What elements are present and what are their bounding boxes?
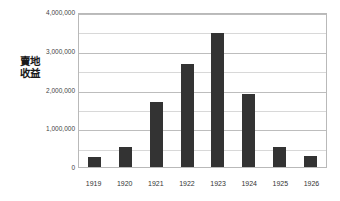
x-tick-label: 1923: [210, 180, 226, 187]
bar-slot-1922: [172, 14, 203, 167]
bar-slot-1924: [233, 14, 264, 167]
y-axis-tick-labels: 4,000,000 3,000,000 2,000,000 1,000,000 …: [34, 13, 75, 168]
x-tick-slot: 1923: [203, 172, 234, 190]
x-tick-label: 1926: [304, 180, 320, 187]
y-tick-label: 4,000,000: [46, 9, 75, 16]
bar-1925[interactable]: [273, 147, 286, 167]
bar-1919[interactable]: [88, 157, 101, 167]
x-tick-slot: 1922: [171, 172, 202, 190]
x-tick-slot: 1921: [140, 172, 171, 190]
x-tick-slot: 1919: [78, 172, 109, 190]
bar-1924[interactable]: [242, 94, 255, 167]
x-tick-slot: 1920: [109, 172, 140, 190]
bars-layer: [79, 14, 326, 167]
x-tick-label: 1925: [273, 180, 289, 187]
y-tick-label: 0: [71, 164, 75, 171]
bar-1920[interactable]: [119, 147, 132, 167]
bar-slot-1920: [110, 14, 141, 167]
x-tick-label: 1921: [148, 180, 164, 187]
bar-chart: 賣地收益 4,000,000 3,000,000 2,000,000 1,000…: [0, 0, 340, 201]
bar-slot-1919: [79, 14, 110, 167]
x-tick-slot: 1926: [296, 172, 327, 190]
x-tick-slot: 1924: [234, 172, 265, 190]
bar-1926[interactable]: [304, 156, 317, 167]
bar-slot-1925: [264, 14, 295, 167]
x-axis-tick-labels: 1919 1920 1921 1922 1923 1924 1925 1926: [78, 172, 327, 190]
bar-slot-1926: [295, 14, 326, 167]
plot-area: [78, 13, 327, 168]
x-tick-label: 1920: [117, 180, 133, 187]
bar-1922[interactable]: [181, 64, 194, 167]
x-tick-label: 1924: [241, 180, 257, 187]
bar-1923[interactable]: [211, 33, 224, 167]
y-tick-label: 1,000,000: [46, 125, 75, 132]
bar-1921[interactable]: [150, 102, 163, 167]
y-tick-label: 2,000,000: [46, 87, 75, 94]
bar-slot-1923: [203, 14, 234, 167]
x-tick-slot: 1925: [265, 172, 296, 190]
x-tick-label: 1919: [86, 180, 102, 187]
x-tick-label: 1922: [179, 180, 195, 187]
bar-slot-1921: [141, 14, 172, 167]
y-tick-label: 3,000,000: [46, 48, 75, 55]
